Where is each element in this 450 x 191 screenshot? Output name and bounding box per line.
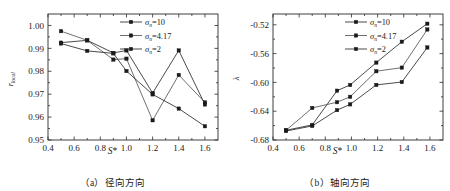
- panel-b: 0.40.60.81.01.21.41.6-0.68-0.64-0.60-0.5…: [225, 0, 450, 191]
- y-axis-label-r: r: [6, 83, 15, 86]
- data-point-marker: [112, 52, 115, 55]
- chart-a-svg: 0.40.60.81.01.21.41.60.950.960.970.980.9…: [0, 0, 225, 163]
- data-point-marker: [426, 22, 429, 25]
- legend-marker-3: [354, 47, 357, 50]
- series-line-2: [61, 31, 205, 120]
- y-tick-label: -0.56: [250, 49, 269, 59]
- y-tick-label: -0.68: [250, 135, 269, 145]
- data-point-marker: [348, 95, 351, 98]
- legend-label-3: σn=2: [370, 45, 386, 55]
- panel-a-x-axis-title: S*: [0, 146, 225, 156]
- legend-marker-2: [354, 34, 357, 37]
- y-tick-label: 0.96: [28, 112, 44, 122]
- chart-b-svg: 0.40.60.81.01.21.41.6-0.68-0.64-0.60-0.5…: [225, 0, 450, 163]
- y-tick-label: 0.99: [28, 44, 44, 54]
- data-point-marker: [335, 108, 338, 111]
- legend-marker-1: [354, 20, 357, 23]
- data-point-marker: [335, 89, 338, 92]
- data-point-marker: [151, 119, 154, 122]
- data-point-marker: [59, 29, 62, 32]
- data-point-marker: [348, 83, 351, 86]
- data-point-marker: [177, 73, 180, 76]
- data-point-marker: [426, 46, 429, 49]
- series-line-3: [61, 44, 205, 127]
- data-point-marker: [400, 80, 403, 83]
- panel-a-y-axis-title: rlocal: [6, 59, 17, 99]
- data-point-marker: [112, 58, 115, 61]
- data-point-marker: [284, 129, 287, 132]
- panel-b-caption: （b）轴向方向: [225, 175, 450, 189]
- legend-label-2: σn=4.17: [145, 32, 171, 42]
- x-axis-label-star: *: [338, 146, 343, 156]
- panel-a-plot: 0.40.60.81.01.21.41.60.950.960.970.980.9…: [0, 0, 225, 163]
- legend-label-2: σn=4.17: [370, 32, 396, 42]
- panel-a-caption: （a）径向方向: [0, 175, 225, 189]
- data-point-marker: [151, 93, 154, 96]
- y-tick-label: -0.52: [250, 20, 269, 30]
- data-point-marker: [203, 101, 206, 104]
- data-point-marker: [375, 83, 378, 86]
- series-line-1: [286, 24, 427, 131]
- data-point-marker: [375, 70, 378, 73]
- data-point-marker: [86, 39, 89, 42]
- series-line-3: [286, 47, 427, 131]
- y-tick-label: -0.60: [250, 78, 269, 88]
- data-point-marker: [125, 69, 128, 72]
- y-tick-label: 0.98: [28, 66, 44, 76]
- data-point-marker: [348, 103, 351, 106]
- panel-b-y-axis-title: λ: [232, 59, 241, 99]
- y-tick-label: 1.00: [28, 21, 44, 31]
- y-tick-label: 0.95: [28, 135, 44, 145]
- data-point-marker: [311, 106, 314, 109]
- panel-a: 0.40.60.81.01.21.41.60.950.960.970.980.9…: [0, 0, 225, 191]
- x-axis-label-star: *: [113, 146, 118, 156]
- panel-b-x-axis-title: S*: [225, 146, 450, 156]
- panel-b-plot: 0.40.60.81.01.21.41.6-0.68-0.64-0.60-0.5…: [225, 0, 450, 163]
- figure-row: 0.40.60.81.01.21.41.60.950.960.970.980.9…: [0, 0, 450, 191]
- legend-marker-1: [129, 20, 132, 23]
- legend-marker-2: [129, 34, 132, 37]
- data-point-marker: [125, 57, 128, 60]
- data-point-marker: [311, 124, 314, 127]
- data-point-marker: [59, 42, 62, 45]
- y-tick-label: -0.64: [250, 106, 269, 116]
- data-point-marker: [177, 107, 180, 110]
- data-point-marker: [426, 28, 429, 31]
- legend-label-3: σn=2: [145, 45, 161, 55]
- y-axis-label-subscript: local: [10, 72, 16, 83]
- data-point-marker: [400, 66, 403, 69]
- legend-label-1: σn=10: [145, 18, 165, 28]
- data-point-marker: [86, 49, 89, 52]
- legend-marker-3: [129, 47, 132, 50]
- y-tick-label: 0.97: [28, 89, 44, 99]
- data-point-marker: [375, 61, 378, 64]
- data-point-marker: [203, 125, 206, 128]
- data-point-marker: [177, 49, 180, 52]
- data-point-marker: [335, 101, 338, 104]
- legend-label-1: σn=10: [370, 18, 390, 28]
- data-point-marker: [400, 40, 403, 43]
